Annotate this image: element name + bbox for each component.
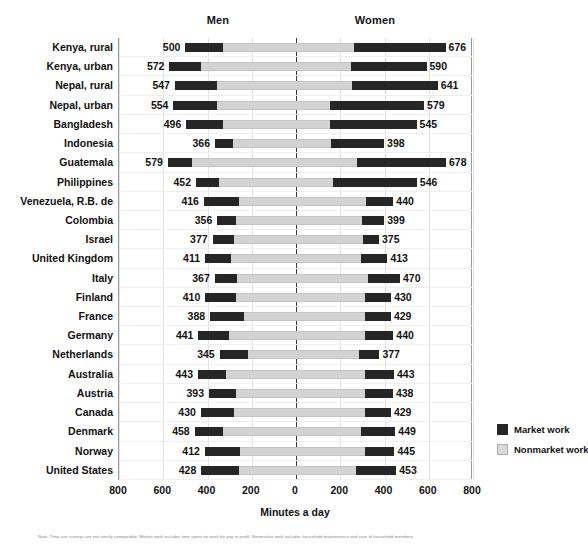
value-label-men: 366: [164, 134, 210, 153]
bar-women: [296, 447, 394, 456]
bar-women: [296, 427, 395, 436]
bar-segment-nonmarket-women: [296, 81, 352, 90]
bar-segment-nonmarket-women: [296, 389, 365, 398]
bar-men: [175, 81, 296, 90]
x-tick-label: 600: [142, 484, 182, 496]
bar-segment-nonmarket-women: [296, 408, 365, 417]
bar-segment-nonmarket-men: [226, 370, 296, 379]
value-label-women: 429: [394, 403, 440, 422]
category-label: Indonesia: [0, 134, 113, 153]
bar-segment-nonmarket-women: [296, 62, 351, 71]
category-label: Denmark: [0, 422, 113, 441]
bar-segment-market-men: [198, 370, 226, 379]
bar-segment-market-women: [365, 370, 394, 379]
bar-segment-nonmarket-men: [217, 81, 296, 90]
bar-segment-market-men: [173, 101, 216, 110]
category-label: Venezuela, R.B. de: [0, 192, 113, 211]
value-label-women: 546: [420, 173, 466, 192]
bar-row: [119, 76, 473, 95]
bar-segment-market-men: [186, 120, 223, 129]
bar-segment-market-men: [205, 254, 231, 263]
bar-segment-market-women: [330, 120, 417, 129]
bar-segment-nonmarket-men: [239, 197, 296, 206]
bar-segment-market-men: [168, 158, 192, 167]
bar-segment-nonmarket-men: [234, 235, 296, 244]
category-label: France: [0, 307, 113, 326]
bar-segment-nonmarket-women: [296, 447, 365, 456]
value-label-men: 458: [144, 422, 190, 441]
x-tick-label: 400: [364, 484, 404, 496]
bar-men: [220, 350, 296, 359]
value-label-men: 441: [147, 326, 193, 345]
bar-segment-nonmarket-women: [296, 235, 363, 244]
value-label-men: 496: [135, 115, 181, 134]
bar-segment-nonmarket-men: [219, 178, 296, 187]
category-label: Bangladesh: [0, 115, 113, 134]
bar-segment-nonmarket-women: [296, 331, 365, 340]
value-label-women: 440: [396, 326, 442, 345]
bar-segment-market-women: [362, 216, 384, 225]
value-label-women: 545: [420, 115, 466, 134]
bar-men: [198, 331, 296, 340]
bar-segment-market-men: [201, 408, 234, 417]
bar-segment-market-women: [365, 447, 395, 456]
bar-segment-market-women: [366, 197, 394, 206]
bar-segment-market-men: [215, 139, 233, 148]
x-tick-label: 800: [98, 484, 138, 496]
bar-segment-nonmarket-men: [192, 158, 296, 167]
bar-segment-nonmarket-men: [248, 350, 296, 359]
bar-segment-market-women: [333, 178, 417, 187]
bar-men: [201, 466, 296, 475]
bar-segment-market-men: [204, 197, 239, 206]
value-label-women: 440: [396, 192, 442, 211]
category-label: Kenya, rural: [0, 38, 113, 57]
bar-row: [119, 153, 473, 172]
bar-segment-nonmarket-men: [237, 274, 296, 283]
bar-segment-nonmarket-women: [296, 43, 354, 52]
bar-women: [296, 370, 394, 379]
legend-label-market: Market work: [514, 424, 569, 435]
bar-men: [205, 447, 296, 456]
value-label-men: 416: [153, 192, 199, 211]
value-label-men: 411: [154, 249, 200, 268]
bar-segment-nonmarket-men: [236, 293, 296, 302]
bar-women: [296, 120, 417, 129]
bar-men: [210, 312, 296, 321]
category-label: Finland: [0, 288, 113, 307]
bar-men: [185, 43, 296, 52]
bar-segment-nonmarket-women: [296, 427, 361, 436]
bar-women: [296, 62, 427, 71]
category-label: Philippines: [0, 173, 113, 192]
bar-men: [169, 62, 296, 71]
bar-men: [198, 370, 296, 379]
bar-men: [213, 235, 296, 244]
x-tick-label: 200: [319, 484, 359, 496]
x-tick-label: 800: [452, 484, 492, 496]
value-label-men: 412: [154, 442, 200, 461]
bar-segment-nonmarket-men: [223, 427, 296, 436]
category-label: Israel: [0, 230, 113, 249]
bar-segment-market-women: [365, 389, 393, 398]
x-axis-title: Minutes a day: [118, 506, 472, 518]
bar-men: [205, 254, 296, 263]
value-label-men: 388: [159, 307, 205, 326]
bar-segment-market-women: [365, 312, 391, 321]
bar-segment-nonmarket-women: [296, 466, 356, 475]
value-label-women: 453: [399, 461, 445, 480]
bar-segment-nonmarket-men: [244, 312, 296, 321]
value-label-women: 413: [390, 249, 436, 268]
value-label-women: 377: [382, 345, 428, 364]
value-label-women: 641: [441, 76, 487, 95]
value-label-women: 590: [430, 57, 476, 76]
bar-men: [196, 178, 296, 187]
bar-segment-market-men: [169, 62, 200, 71]
bar-segment-market-women: [354, 43, 445, 52]
chart-footnote: Note: Time-use surveys are not strictly …: [38, 534, 558, 540]
value-label-men: 554: [122, 96, 168, 115]
value-label-women: 375: [382, 230, 428, 249]
bar-segment-market-women: [363, 235, 379, 244]
bar-segment-market-women: [356, 466, 396, 475]
bar-segment-nonmarket-men: [236, 389, 296, 398]
bar-segment-nonmarket-men: [229, 331, 296, 340]
bar-segment-market-men: [198, 331, 228, 340]
